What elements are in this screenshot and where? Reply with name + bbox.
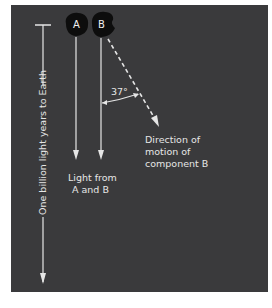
motion-label-line-2: motion of xyxy=(145,146,190,158)
motion-label-line-1: Direction of xyxy=(145,134,200,146)
light-label-line-1: Light from xyxy=(68,172,117,184)
distance-label: One billion light years to Earth xyxy=(37,70,48,215)
angle-label: 37° xyxy=(111,86,128,98)
component-a-label: A xyxy=(73,20,80,30)
component-b-label: B xyxy=(98,20,105,30)
motion-direction-arrow xyxy=(108,39,159,127)
light-rays xyxy=(73,37,104,160)
motion-label-line-3: component B xyxy=(145,158,208,170)
light-label-line-2: A and B xyxy=(72,184,109,196)
